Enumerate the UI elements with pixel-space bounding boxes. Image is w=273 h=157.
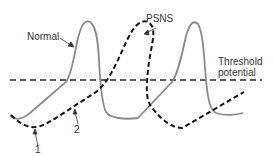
marker-1-label: 1 [35, 144, 41, 155]
psns-label: PSNS [146, 13, 173, 24]
pacemaker-potential-diagram [0, 0, 273, 157]
marker-2-arrow [73, 109, 78, 124]
threshold-label-line2: potential [218, 67, 256, 78]
threshold-label-line1: Threshold [218, 56, 262, 67]
marker-2-label: 2 [74, 124, 80, 135]
normal-arrow [60, 38, 74, 47]
normal-label: Normal [27, 31, 59, 42]
